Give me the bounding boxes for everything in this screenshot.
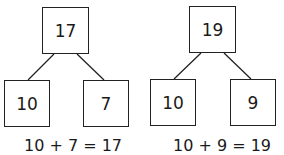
whole-box: 17 bbox=[42, 7, 89, 54]
part-box-right: 7 bbox=[83, 80, 129, 127]
equation: 10 + 7 = 17 bbox=[24, 136, 122, 155]
part-box-right: 9 bbox=[230, 79, 276, 126]
whole-box: 19 bbox=[189, 6, 236, 53]
part-box-left: 10 bbox=[4, 80, 50, 127]
equation: 10 + 9 = 19 bbox=[173, 136, 271, 155]
part-box-left: 10 bbox=[150, 79, 196, 126]
